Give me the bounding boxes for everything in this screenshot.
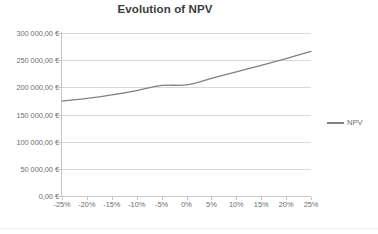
- x-axis-tick: [137, 197, 138, 200]
- y-axis-tick-label: 50 000,00 €: [1, 164, 59, 173]
- x-axis-tick-label: 15%: [254, 200, 269, 209]
- x-axis-tick: [236, 197, 237, 200]
- x-axis-tick-label: 10%: [229, 200, 244, 209]
- x-axis-tick: [162, 197, 163, 200]
- x-axis-tick: [286, 197, 287, 200]
- y-axis-tick: [57, 196, 61, 197]
- page-edge-artifact: [0, 228, 378, 229]
- x-axis-tick-label: 25%: [304, 200, 319, 209]
- y-axis-tick: [57, 60, 61, 61]
- x-axis-tick-label: -25%: [53, 200, 70, 209]
- x-axis-tick-label: 0%: [181, 200, 192, 209]
- x-axis-tick-label: -5%: [155, 200, 168, 209]
- chart-legend: NPV: [327, 118, 363, 127]
- x-axis-tick-label: 5%: [206, 200, 217, 209]
- y-axis-tick-label: 250 000,00 €: [1, 56, 59, 65]
- y-axis-tick-label: 200 000,00 €: [1, 83, 59, 92]
- y-axis-tick: [57, 115, 61, 116]
- x-axis-tick: [211, 197, 212, 200]
- x-axis-tick: [261, 197, 262, 200]
- y-axis-tick: [57, 169, 61, 170]
- series-npv-line: [62, 33, 311, 196]
- x-axis-tick: [87, 197, 88, 200]
- plot-area: [62, 33, 311, 196]
- x-axis-tick: [112, 197, 113, 200]
- x-axis-tick-label: -20%: [78, 200, 95, 209]
- y-axis-tick-label: 0,00 €: [1, 192, 59, 201]
- y-axis-tick-label: 150 000,00 €: [1, 110, 59, 119]
- y-axis-tick-label: 300 000,00 €: [1, 29, 59, 38]
- x-axis-tick-label: -15%: [103, 200, 120, 209]
- y-axis-tick: [57, 33, 61, 34]
- legend-line-icon: [327, 122, 344, 124]
- y-axis-tick: [57, 87, 61, 88]
- y-axis-labels: 0,00 €50 000,00 €100 000,00 €150 000,00 …: [0, 0, 59, 234]
- chart-container: Evolution of NPV 0,00 €50 000,00 €100 00…: [0, 0, 378, 234]
- y-axis-tick: [57, 142, 61, 143]
- x-axis-tick: [62, 197, 63, 200]
- x-axis-tick-label: -10%: [128, 200, 145, 209]
- legend-item-npv: NPV: [347, 118, 363, 127]
- y-axis-tick-label: 100 000,00 €: [1, 137, 59, 146]
- x-axis-tick: [187, 197, 188, 200]
- x-axis-labels: -25%-20%-15%-10%-5%0%5%10%15%20%25%: [62, 200, 311, 214]
- x-axis-tick: [311, 197, 312, 200]
- x-axis-tick-label: 20%: [279, 200, 294, 209]
